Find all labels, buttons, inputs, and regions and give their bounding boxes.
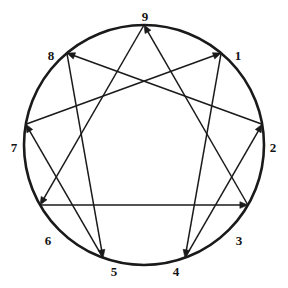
node-label-9: 9: [135, 10, 155, 23]
arrowhead-at-2: [255, 124, 262, 133]
node-label-3: 3: [229, 234, 249, 247]
edge-line: [67, 53, 102, 251]
node-label-8: 8: [41, 49, 61, 62]
node-label-2: 2: [263, 141, 283, 154]
node-label-4: 4: [166, 265, 186, 278]
arrowhead-at-7: [26, 124, 33, 133]
arrowhead-at-6: [40, 196, 47, 205]
node-label-7: 7: [4, 141, 24, 154]
enneagram-diagram: 123456789: [0, 0, 288, 288]
edge-line: [186, 53, 221, 251]
node-label-5: 5: [104, 265, 124, 278]
node-label-1: 1: [228, 49, 248, 62]
node-label-6: 6: [38, 234, 58, 247]
